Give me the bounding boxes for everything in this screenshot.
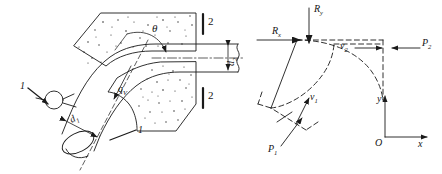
section-line-1-left <box>28 88 48 104</box>
angle-theta-label: θ <box>152 23 157 34</box>
pipe-centerline <box>80 40 148 170</box>
velocity-1-label: v1 <box>310 92 318 105</box>
pressure-2-subscript: 2 <box>428 43 431 50</box>
velocity-1-arrow <box>296 98 309 124</box>
velocity-1-subscript: 1 <box>314 97 317 104</box>
axis-origin-label: O <box>375 138 382 148</box>
section-line-1-right <box>110 130 136 140</box>
dashed-control-volume <box>258 40 383 130</box>
dimension-d1 <box>66 121 97 137</box>
pressure-1-subscript: 1 <box>274 149 277 156</box>
axis-x-label: x <box>418 139 422 149</box>
flow-rate-subscript: V <box>123 89 127 96</box>
reaction-y-label: Ry <box>314 4 323 17</box>
section-label-1-right: 1 <box>138 125 143 135</box>
pressure-1-label: P1 <box>268 144 277 157</box>
figure-canvas: θ qV d1 d2 1 1 2 2 Rx Ry v2 P2 v1 P1 y x… <box>0 0 442 174</box>
outlet-diameter-subscript: 2 <box>231 58 238 61</box>
velocity-2-subscript: 2 <box>344 46 347 53</box>
outlet-diameter-label: d2 <box>226 58 239 66</box>
reaction-y-subscript: y <box>320 9 323 16</box>
section-label-2-bottom: 2 <box>208 90 214 101</box>
concrete-stipple <box>78 15 192 123</box>
pressure-1-leader <box>281 118 302 146</box>
velocity-2-label: v2 <box>340 41 348 54</box>
axis-y-label: y <box>377 94 381 104</box>
reaction-x-subscript: x <box>278 31 281 38</box>
pressure-2-label: P2 <box>422 38 431 51</box>
reaction-x-label: Rx <box>272 26 281 39</box>
inlet-face <box>277 112 292 122</box>
flow-rate-label: qV <box>118 84 127 97</box>
angle-indicator <box>115 32 166 52</box>
section-label-1-left: 1 <box>20 81 25 91</box>
bent-pipe <box>59 44 240 159</box>
section-label-2-top: 2 <box>208 16 214 27</box>
outlet-diameter-symbol: d <box>225 61 236 66</box>
coordinate-axes <box>385 96 427 137</box>
